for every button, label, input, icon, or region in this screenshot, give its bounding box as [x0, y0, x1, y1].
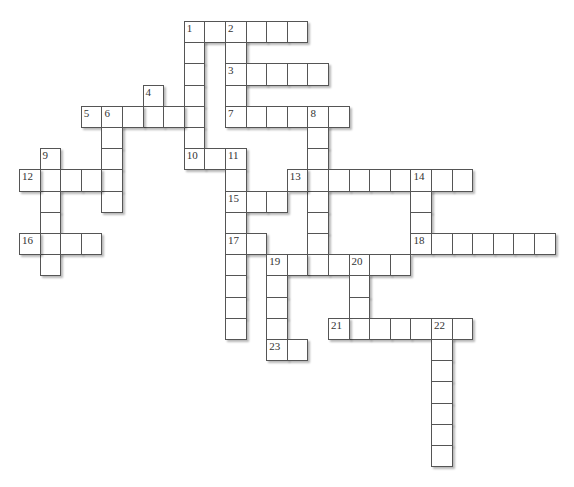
crossword-cell[interactable] — [410, 191, 432, 213]
crossword-cell[interactable] — [81, 169, 103, 191]
crossword-cell[interactable]: 9 — [40, 148, 62, 170]
crossword-cell[interactable] — [369, 318, 391, 340]
crossword-cell[interactable] — [101, 169, 123, 191]
crossword-cell[interactable] — [266, 21, 288, 43]
crossword-cell[interactable] — [390, 318, 412, 340]
crossword-cell[interactable]: 13 — [287, 169, 309, 191]
crossword-cell[interactable] — [266, 106, 288, 128]
crossword-cell[interactable] — [328, 106, 350, 128]
crossword-cell[interactable] — [307, 254, 329, 276]
crossword-cell[interactable] — [410, 318, 432, 340]
crossword-cell[interactable] — [266, 297, 288, 319]
crossword-cell[interactable] — [287, 63, 309, 85]
crossword-cell[interactable]: 8 — [307, 106, 329, 128]
crossword-cell[interactable] — [307, 233, 329, 255]
crossword-cell[interactable] — [246, 233, 268, 255]
crossword-cell[interactable]: 6 — [101, 106, 123, 128]
crossword-cell[interactable] — [204, 21, 226, 43]
crossword-cell[interactable] — [101, 191, 123, 213]
crossword-cell[interactable] — [40, 169, 62, 191]
crossword-cell[interactable] — [40, 191, 62, 213]
crossword-cell[interactable] — [534, 233, 556, 255]
crossword-cell[interactable]: 10 — [184, 148, 206, 170]
crossword-cell[interactable] — [307, 169, 329, 191]
crossword-cell[interactable] — [122, 106, 144, 128]
crossword-cell[interactable]: 16 — [19, 233, 41, 255]
crossword-cell[interactable] — [307, 148, 329, 170]
crossword-cell[interactable] — [431, 403, 453, 425]
crossword-cell[interactable] — [184, 42, 206, 64]
crossword-cell[interactable] — [287, 21, 309, 43]
crossword-cell[interactable] — [390, 254, 412, 276]
crossword-cell[interactable] — [349, 275, 371, 297]
crossword-cell[interactable] — [225, 275, 247, 297]
crossword-cell[interactable] — [184, 127, 206, 149]
crossword-cell[interactable] — [60, 233, 82, 255]
crossword-cell[interactable] — [369, 169, 391, 191]
crossword-cell[interactable] — [287, 254, 309, 276]
crossword-cell[interactable] — [287, 106, 309, 128]
crossword-cell[interactable] — [101, 127, 123, 149]
crossword-cell[interactable]: 1 — [184, 21, 206, 43]
crossword-cell[interactable] — [307, 212, 329, 234]
crossword-cell[interactable] — [431, 169, 453, 191]
crossword-cell[interactable] — [246, 63, 268, 85]
crossword-cell[interactable] — [225, 42, 247, 64]
crossword-cell[interactable] — [349, 297, 371, 319]
crossword-cell[interactable] — [204, 148, 226, 170]
crossword-cell[interactable] — [431, 233, 453, 255]
crossword-cell[interactable] — [513, 233, 535, 255]
crossword-cell[interactable] — [328, 169, 350, 191]
crossword-cell[interactable]: 12 — [19, 169, 41, 191]
crossword-cell[interactable] — [431, 424, 453, 446]
crossword-cell[interactable] — [246, 21, 268, 43]
crossword-cell[interactable]: 11 — [225, 148, 247, 170]
crossword-cell[interactable] — [40, 254, 62, 276]
crossword-cell[interactable] — [184, 85, 206, 107]
crossword-cell[interactable] — [266, 191, 288, 213]
crossword-cell[interactable] — [431, 360, 453, 382]
crossword-cell[interactable] — [349, 169, 371, 191]
crossword-cell[interactable] — [431, 445, 453, 467]
crossword-cell[interactable]: 19 — [266, 254, 288, 276]
crossword-cell[interactable] — [410, 212, 432, 234]
crossword-cell[interactable] — [225, 85, 247, 107]
crossword-cell[interactable] — [225, 254, 247, 276]
crossword-cell[interactable] — [163, 106, 185, 128]
crossword-cell[interactable] — [369, 254, 391, 276]
crossword-cell[interactable] — [390, 169, 412, 191]
crossword-cell[interactable]: 14 — [410, 169, 432, 191]
crossword-cell[interactable]: 22 — [431, 318, 453, 340]
crossword-cell[interactable] — [349, 318, 371, 340]
crossword-cell[interactable] — [493, 233, 515, 255]
crossword-cell[interactable] — [452, 169, 474, 191]
crossword-cell[interactable] — [266, 318, 288, 340]
crossword-cell[interactable] — [40, 212, 62, 234]
crossword-cell[interactable] — [307, 127, 329, 149]
crossword-cell[interactable]: 4 — [143, 85, 165, 107]
crossword-cell[interactable] — [431, 339, 453, 361]
crossword-cell[interactable] — [246, 191, 268, 213]
crossword-cell[interactable]: 21 — [328, 318, 350, 340]
crossword-cell[interactable]: 18 — [410, 233, 432, 255]
crossword-cell[interactable] — [307, 191, 329, 213]
crossword-cell[interactable] — [60, 169, 82, 191]
crossword-cell[interactable] — [307, 63, 329, 85]
crossword-cell[interactable] — [225, 212, 247, 234]
crossword-cell[interactable] — [184, 106, 206, 128]
crossword-cell[interactable] — [40, 233, 62, 255]
crossword-cell[interactable]: 5 — [81, 106, 103, 128]
crossword-cell[interactable]: 2 — [225, 21, 247, 43]
crossword-cell[interactable] — [143, 106, 165, 128]
crossword-cell[interactable] — [184, 63, 206, 85]
crossword-cell[interactable] — [266, 275, 288, 297]
crossword-cell[interactable]: 7 — [225, 106, 247, 128]
crossword-cell[interactable] — [225, 318, 247, 340]
crossword-cell[interactable] — [81, 233, 103, 255]
crossword-cell[interactable] — [287, 339, 309, 361]
crossword-cell[interactable]: 20 — [349, 254, 371, 276]
crossword-cell[interactable] — [266, 63, 288, 85]
crossword-cell[interactable] — [452, 318, 474, 340]
crossword-cell[interactable] — [328, 254, 350, 276]
crossword-cell[interactable] — [431, 381, 453, 403]
